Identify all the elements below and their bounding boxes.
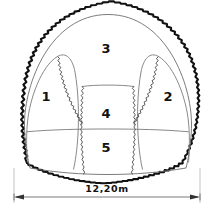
stage-label-1: 1 — [41, 89, 50, 104]
stage-label-4: 4 — [101, 106, 110, 121]
dimension-arrow-right-icon — [190, 195, 200, 200]
stage-label-5: 5 — [101, 140, 110, 155]
tunnel-drawing: 1 2 3 4 5 12,20m — [0, 0, 215, 210]
tunnel-cross-section-diagram: 1 2 3 4 5 12,20m — [0, 0, 215, 210]
stage-label-2: 2 — [163, 89, 172, 104]
dimension-arrow-left-icon — [14, 195, 24, 200]
dimension-label: 12,20m — [85, 183, 129, 194]
stage-label-3: 3 — [101, 41, 110, 56]
